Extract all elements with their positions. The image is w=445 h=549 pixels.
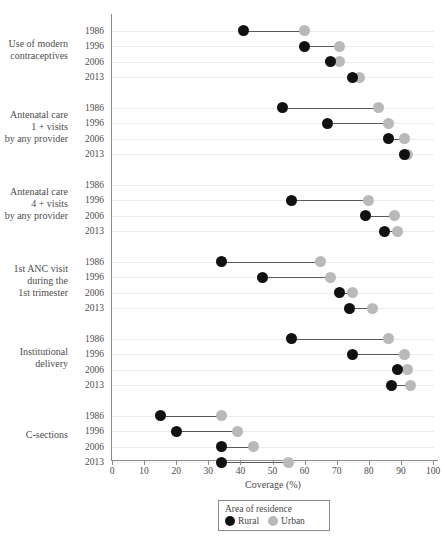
group-label-line: 1st ANC visit bbox=[0, 263, 68, 275]
x-axis-tick bbox=[273, 461, 274, 465]
group-label-line: Institutional bbox=[0, 346, 68, 358]
year-label: 1986 bbox=[70, 180, 104, 190]
group-label-line: Antenatal care bbox=[0, 109, 68, 121]
data-point-rural bbox=[171, 426, 182, 437]
legend: Area of residence Rural Urban bbox=[218, 500, 330, 531]
data-point-rural bbox=[379, 226, 390, 237]
data-point-rural bbox=[238, 25, 249, 36]
data-point-urban bbox=[373, 102, 384, 113]
connector-line bbox=[353, 354, 404, 355]
year-label: 1986 bbox=[70, 26, 104, 36]
gridline bbox=[112, 154, 434, 155]
data-point-rural bbox=[257, 272, 268, 283]
data-point-urban bbox=[283, 457, 294, 468]
year-label: 1986 bbox=[70, 257, 104, 267]
group-label-line: by any provider bbox=[0, 133, 68, 145]
group-label-line: by any provider bbox=[0, 210, 68, 222]
legend-label-urban: Urban bbox=[281, 516, 305, 526]
year-label: 2006 bbox=[70, 211, 104, 221]
data-point-rural bbox=[216, 256, 227, 267]
connector-line bbox=[263, 277, 330, 278]
data-point-rural bbox=[286, 195, 297, 206]
y-axis-spine bbox=[111, 14, 112, 460]
data-point-rural bbox=[347, 72, 358, 83]
connector-line bbox=[244, 31, 305, 32]
group-label-line: contraceptives bbox=[0, 50, 68, 62]
group-label-line: delivery bbox=[0, 358, 68, 370]
group-label-line: 4 + visits bbox=[0, 198, 68, 210]
gridline bbox=[112, 108, 434, 109]
gridline bbox=[112, 447, 434, 448]
data-point-rural bbox=[383, 133, 394, 144]
group-label: 1st ANC visitduring the1st trimester bbox=[0, 263, 68, 298]
year-label: 2006 bbox=[70, 134, 104, 144]
connector-line bbox=[221, 462, 288, 463]
gridline bbox=[112, 370, 434, 371]
group-label: Use of moderncontraceptives bbox=[0, 38, 68, 62]
data-point-urban bbox=[334, 41, 345, 52]
connector-line bbox=[292, 339, 388, 340]
data-point-rural bbox=[325, 56, 336, 67]
x-axis-tick bbox=[401, 461, 402, 465]
data-point-rural bbox=[334, 287, 345, 298]
data-point-urban bbox=[392, 226, 403, 237]
year-label: 2013 bbox=[70, 303, 104, 313]
data-point-urban bbox=[232, 426, 243, 437]
data-point-rural bbox=[216, 457, 227, 468]
year-label: 1986 bbox=[70, 103, 104, 113]
year-label: 2006 bbox=[70, 442, 104, 452]
x-axis-spine bbox=[111, 460, 438, 461]
data-point-rural bbox=[277, 102, 288, 113]
group-label: Antenatal care1 + visitsby any provider bbox=[0, 109, 68, 144]
data-point-rural bbox=[347, 349, 358, 360]
year-label: 2013 bbox=[70, 380, 104, 390]
legend-item-rural: Rural bbox=[225, 516, 259, 526]
group-label-line: 1st trimester bbox=[0, 287, 68, 299]
x-axis-tick bbox=[208, 461, 209, 465]
circle-marker-icon-rural bbox=[225, 516, 235, 526]
year-label: 1996 bbox=[70, 426, 104, 436]
data-point-rural bbox=[299, 41, 310, 52]
data-point-urban bbox=[363, 195, 374, 206]
gridline bbox=[112, 431, 434, 432]
group-label-line: Antenatal care bbox=[0, 186, 68, 198]
year-label: 2006 bbox=[70, 365, 104, 375]
year-label: 1986 bbox=[70, 411, 104, 421]
gridline bbox=[112, 308, 434, 309]
data-point-rural bbox=[392, 364, 403, 375]
connector-line bbox=[176, 431, 237, 432]
data-point-rural bbox=[286, 333, 297, 344]
x-axis-title: Coverage (%) bbox=[112, 479, 434, 490]
data-point-urban bbox=[399, 133, 410, 144]
group-label: C-sections bbox=[0, 429, 68, 441]
gridline bbox=[112, 62, 434, 63]
legend-label-rural: Rural bbox=[238, 516, 259, 526]
x-axis-tick bbox=[433, 461, 434, 465]
circle-marker-icon-urban bbox=[268, 516, 278, 526]
year-label: 2006 bbox=[70, 57, 104, 67]
data-point-urban bbox=[383, 333, 394, 344]
data-point-urban bbox=[402, 364, 413, 375]
year-label: 1996 bbox=[70, 349, 104, 359]
x-axis-tick bbox=[305, 461, 306, 465]
x-axis-tick-label: 100 bbox=[413, 466, 445, 476]
group-label-line: 1 + visits bbox=[0, 121, 68, 133]
data-point-rural bbox=[399, 149, 410, 160]
data-point-urban bbox=[367, 303, 378, 314]
year-label: 2013 bbox=[70, 72, 104, 82]
group-label-line: Use of modern bbox=[0, 38, 68, 50]
data-point-rural bbox=[322, 118, 333, 129]
data-point-urban bbox=[347, 287, 358, 298]
gridline bbox=[112, 185, 434, 186]
gridline bbox=[112, 200, 434, 201]
data-point-rural bbox=[360, 210, 371, 221]
year-label: 2013 bbox=[70, 226, 104, 236]
x-axis-tick bbox=[240, 461, 241, 465]
legend-title: Area of residence bbox=[225, 504, 323, 514]
data-point-urban bbox=[383, 118, 394, 129]
data-point-rural bbox=[386, 380, 397, 391]
x-axis-tick bbox=[176, 461, 177, 465]
year-label: 1996 bbox=[70, 118, 104, 128]
connector-line bbox=[292, 200, 369, 201]
year-label: 1986 bbox=[70, 334, 104, 344]
